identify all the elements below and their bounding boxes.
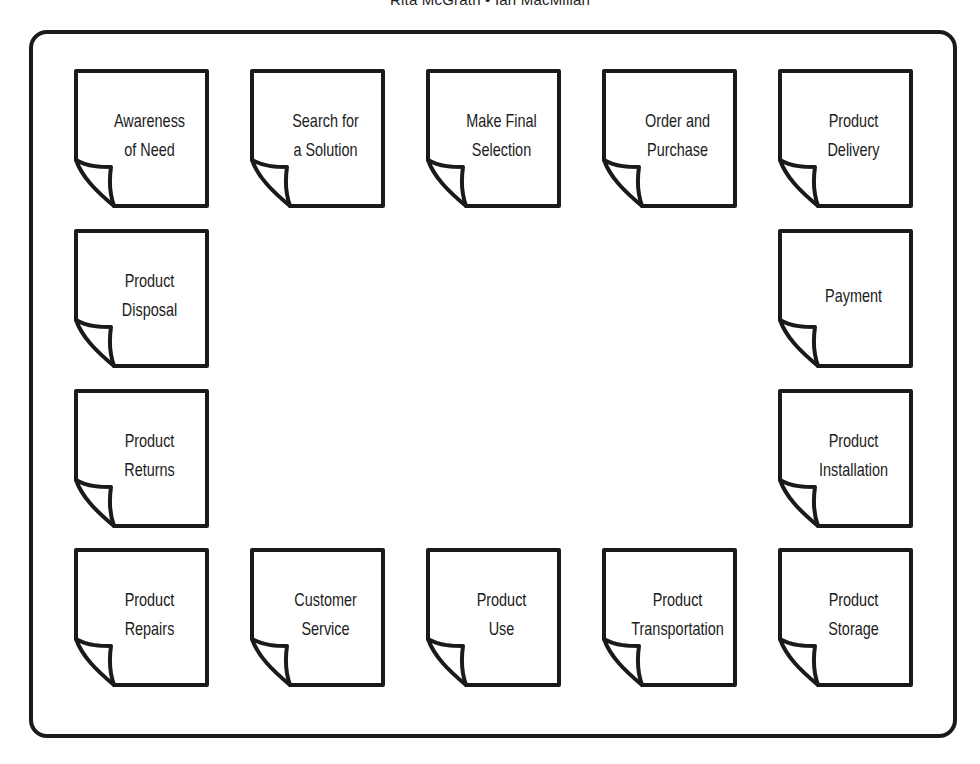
sticky-note-product-disposal: Product Disposal	[74, 229, 211, 370]
sticky-note-payment: Payment	[778, 229, 915, 370]
sticky-note-label: Product Transportation	[633, 584, 723, 644]
sticky-note-product-installation: Product Installation	[778, 389, 915, 530]
sticky-note-order-and-purchase: Order and Purchase	[602, 69, 739, 210]
sticky-note-label: Product Delivery	[809, 105, 899, 165]
sticky-note-customer-service: Customer Service	[250, 548, 387, 689]
sticky-note-label: Product Disposal	[105, 265, 195, 325]
sticky-note-label: Product Repairs	[105, 584, 195, 644]
sticky-note-product-returns: Product Returns	[74, 389, 211, 530]
sticky-note-label: Product Storage	[809, 584, 899, 644]
sticky-note-label: Payment	[809, 265, 899, 325]
sticky-note-label: Product Use	[457, 584, 547, 644]
sticky-note-make-final-selection: Make Final Selection	[426, 69, 563, 210]
sticky-note-label: Product Installation	[809, 425, 899, 485]
sticky-note-awareness-of-need: Awareness of Need	[74, 69, 211, 210]
sticky-note-product-transportation: Product Transportation	[602, 548, 739, 689]
sticky-note-product-use: Product Use	[426, 548, 563, 689]
sticky-note-product-storage: Product Storage	[778, 548, 915, 689]
sticky-note-label: Search for a Solution	[281, 105, 371, 165]
sticky-note-search-for-a-solution: Search for a Solution	[250, 69, 387, 210]
sticky-note-label: Make Final Selection	[457, 105, 547, 165]
sticky-note-product-repairs: Product Repairs	[74, 548, 211, 689]
sticky-note-label: Order and Purchase	[633, 105, 723, 165]
sticky-note-product-delivery: Product Delivery	[778, 69, 915, 210]
sticky-note-label: Customer Service	[281, 584, 371, 644]
sticky-note-label: Product Returns	[105, 425, 195, 485]
authors-header: Rita McGrath • Ian MacMillan	[0, 0, 980, 8]
sticky-note-label: Awareness of Need	[105, 105, 195, 165]
